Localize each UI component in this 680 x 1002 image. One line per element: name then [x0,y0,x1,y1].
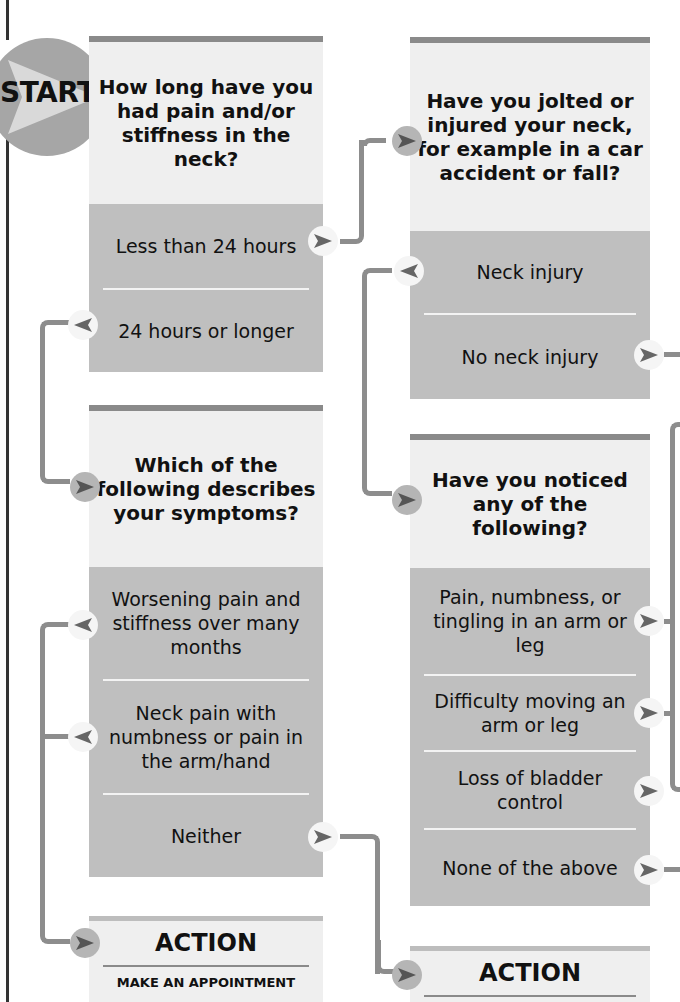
question-text: How long have you had pain and/or stiffn… [89,42,323,204]
connector-q1-to-q2 [340,140,364,244]
arrow-in-node[interactable] [70,472,100,502]
answers-panel: Less than 24 hours 24 hours or longer [89,204,323,372]
arrow-right-node[interactable] [634,698,664,728]
arrow-in-node[interactable] [392,126,422,156]
answers-panel: Neck injury No neck injury [410,231,650,399]
connector-stub [664,711,674,716]
question-box-symptoms: Which of the following describes your sy… [89,405,323,877]
answer-24-hours-or-longer[interactable]: 24 hours or longer [89,290,323,372]
arrow-in-node[interactable] [70,928,100,958]
arrow-right-icon [640,784,658,798]
arrow-right-icon [76,936,94,950]
arrow-right-node[interactable] [308,226,338,256]
answers-panel: Pain, numbness, or tingling in an arm or… [410,568,650,906]
arrow-right-icon [640,348,658,362]
question-box-injury: Have you jolted or injured your neck, fo… [410,37,650,399]
arrow-right-node[interactable] [634,606,664,636]
arrow-left-node[interactable] [68,310,98,340]
arrow-right-icon [398,134,416,148]
answer-no-neck-injury[interactable]: No neck injury [410,315,650,399]
answer-difficulty-moving[interactable]: Difficulty moving an arm or leg [410,676,650,750]
arrow-right-icon [640,706,658,720]
arrow-left-icon [74,730,92,744]
action-title: ACTION [410,951,650,995]
arrow-right-node[interactable] [634,855,664,885]
arrow-left-icon [74,318,92,332]
arrow-right-icon [398,968,416,982]
connector-q3-branch [45,734,70,739]
arrow-left-node[interactable] [68,610,98,640]
start-label: START [0,76,96,109]
arrow-right-icon [76,480,94,494]
connector-no-injury-out [664,352,680,357]
question-box-duration: How long have you had pain and/or stiffn… [89,36,323,372]
connector-q1-to-q2-top [362,138,386,146]
connector-q3-neither [340,834,380,974]
arrow-right-icon [398,493,416,507]
answer-neck-injury[interactable]: Neck injury [410,231,650,313]
question-text: Which of the following describes your sy… [89,411,323,567]
arrow-right-icon [314,830,332,844]
answer-worsening-pain[interactable]: Worsening pain and stiffness over many m… [89,567,323,679]
arrow-right-node[interactable] [634,776,664,806]
arrow-in-node[interactable] [392,485,422,515]
answer-neither[interactable]: Neither [89,795,323,877]
action-rule [424,995,636,997]
arrow-right-icon [640,863,658,877]
connector-stub [664,619,674,624]
action-title: ACTION [89,921,323,965]
answer-neck-pain-with-numbness[interactable]: Neck pain with numbness or pain in the a… [89,681,323,793]
connector-none-out [664,867,680,872]
answer-pain-numbness-tingling[interactable]: Pain, numbness, or tingling in an arm or… [410,568,650,674]
action-text: MAKE AN APPOINTMENT [89,967,323,990]
connector-q2-to-q4 [362,268,392,496]
connector-q3-to-action [40,622,70,944]
answer-less-than-24-hours[interactable]: Less than 24 hours [89,204,323,288]
answers-panel: Worsening pain and stiffness over many m… [89,567,323,877]
question-text: Have you noticed any of the following? [410,440,650,568]
answer-none-of-the-above[interactable]: None of the above [410,830,650,906]
connector-red-flags [670,422,680,792]
question-text: Have you jolted or injured your neck, fo… [410,43,650,231]
arrow-in-node[interactable] [392,960,422,990]
arrow-right-node[interactable] [308,822,338,852]
arrow-left-node[interactable] [68,722,98,752]
arrow-left-icon [400,264,418,278]
arrow-right-icon [314,234,332,248]
arrow-left-node[interactable] [394,256,424,286]
connector-q3-neither-bottom [376,940,394,974]
question-box-neuro-symptoms: Have you noticed any of the following? P… [410,434,650,906]
arrow-right-node[interactable] [634,340,664,370]
arrow-left-icon [74,618,92,632]
action-box-appointment: ACTION MAKE AN APPOINTMENT [89,916,323,1002]
connector-q1-to-q3 [40,320,70,484]
arrow-right-icon [640,614,658,628]
action-box-right: ACTION [410,946,650,1002]
answer-loss-of-bladder-control[interactable]: Loss of bladder control [410,752,650,828]
